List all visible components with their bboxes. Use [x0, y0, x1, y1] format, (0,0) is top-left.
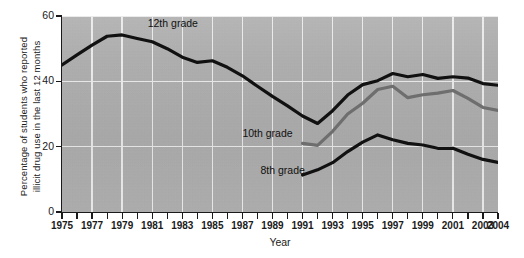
x-tick-label: 2004: [478, 220, 518, 231]
x-tick-mark: [497, 213, 498, 219]
x-tick-mark: [317, 213, 318, 219]
x-tick-mark: [167, 213, 168, 219]
x-tick-mark: [392, 213, 393, 219]
x-tick-mark: [152, 213, 153, 219]
x-tick-mark: [482, 213, 483, 219]
x-tick-mark: [377, 213, 378, 219]
y-tick-label: 20: [28, 140, 54, 152]
y-axis-title: Percentage of students who reported illi…: [18, 9, 43, 225]
x-tick-mark: [332, 213, 333, 219]
x-tick-mark: [137, 213, 138, 219]
x-tick-mark: [452, 213, 453, 219]
x-tick-mark: [407, 213, 408, 219]
x-tick-mark: [107, 213, 108, 219]
x-tick-mark: [182, 213, 183, 219]
x-tick-mark: [212, 213, 213, 219]
x-tick-mark: [76, 213, 77, 219]
plot-area: 12th grade10th grade8th grade: [62, 16, 498, 212]
annotation-12th-grade: 12th grade: [148, 17, 198, 29]
x-tick-mark: [257, 213, 258, 219]
series-line-10th-grade: [303, 86, 498, 145]
series-lines: [62, 16, 498, 212]
x-tick-mark: [362, 213, 363, 219]
y-tick-label: 0: [28, 205, 54, 217]
annotation-8th-grade: 8th grade: [260, 164, 304, 176]
x-tick-mark: [347, 213, 348, 219]
series-line-8th-grade: [303, 135, 498, 175]
x-tick-mark: [122, 213, 123, 219]
x-tick-mark: [467, 213, 468, 219]
annotation-10th-grade: 10th grade: [242, 127, 292, 139]
x-tick-mark: [422, 213, 423, 219]
x-tick-mark: [242, 213, 243, 219]
x-tick-mark: [61, 213, 62, 219]
y-tick-label: 60: [28, 9, 54, 21]
x-tick-mark: [91, 213, 92, 219]
x-axis-title: Year: [62, 236, 498, 248]
x-tick-mark: [437, 213, 438, 219]
x-tick-mark: [302, 213, 303, 219]
x-tick-mark: [272, 213, 273, 219]
chart-figure: Percentage of students who reported illi…: [0, 0, 524, 258]
series-line-12th-grade: [62, 35, 498, 124]
x-tick-mark: [197, 213, 198, 219]
x-tick-mark: [227, 213, 228, 219]
x-tick-mark: [287, 213, 288, 219]
y-tick-label: 40: [28, 74, 54, 86]
